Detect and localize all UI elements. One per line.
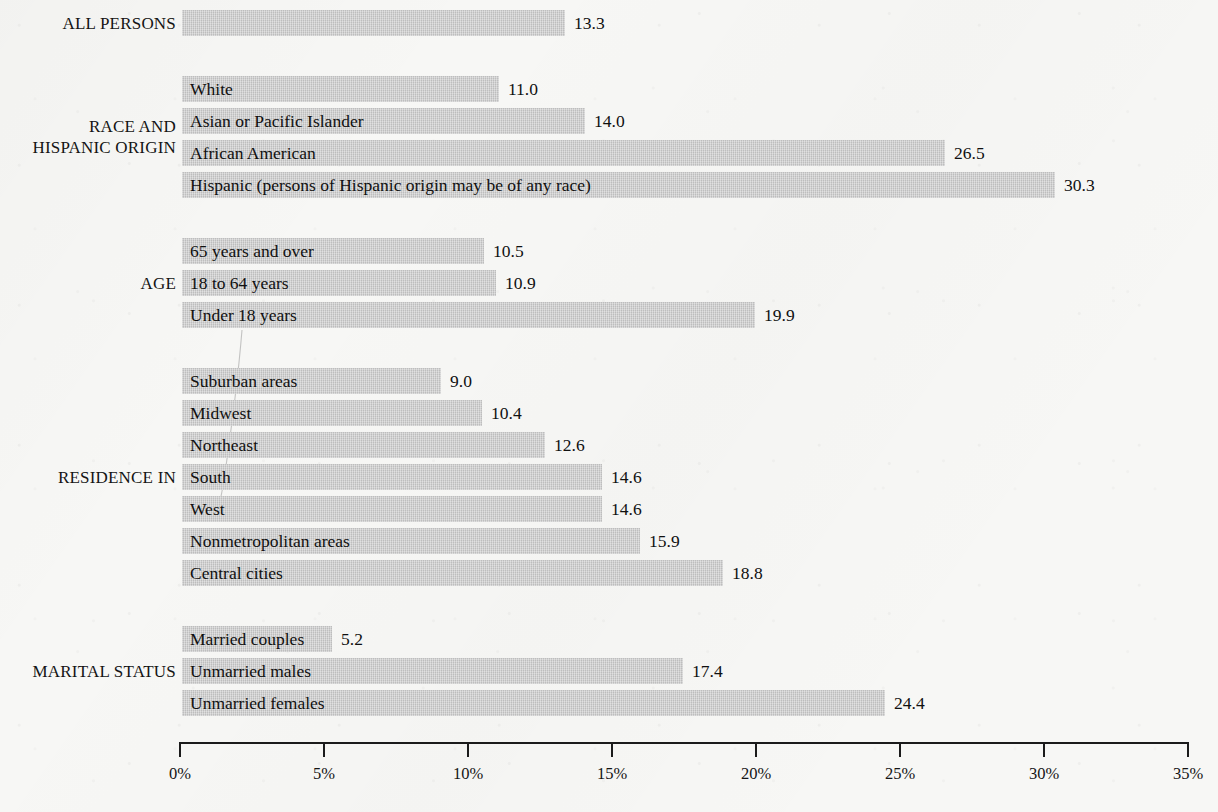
- bar-value-label: 10.5: [493, 238, 524, 264]
- group-label-race-and-hispanic-origin: RACE AND HISPANIC ORIGIN: [0, 116, 176, 158]
- bar-row: Northeast12.6: [0, 432, 1218, 458]
- bar-value-label: 17.4: [692, 658, 723, 684]
- bar-label: Married couples: [182, 626, 304, 652]
- bar-value-label: 26.5: [954, 140, 985, 166]
- bar-row: Unmarried males17.4: [0, 658, 1218, 684]
- bar-label: African American: [182, 140, 316, 166]
- bar-label: White: [182, 76, 233, 102]
- axis-tick-label: 35%: [1173, 764, 1203, 784]
- bar-value-label: 10.4: [491, 400, 522, 426]
- bar-label: Suburban areas: [182, 368, 297, 394]
- bar-label: Under 18 years: [182, 302, 297, 328]
- bar-row: 18 to 64 years10.9: [0, 270, 1218, 296]
- axis-tick: [899, 742, 901, 757]
- axis-tick-label: 15%: [597, 764, 627, 784]
- bar-row: Unmarried females24.4: [0, 690, 1218, 716]
- bar-label: Asian or Pacific Islander: [182, 108, 363, 134]
- bar-row: Under 18 years19.9: [0, 302, 1218, 328]
- bar-row: Midwest10.4: [0, 400, 1218, 426]
- bar-value-label: 5.2: [341, 626, 363, 652]
- bar-label: Unmarried males: [182, 658, 311, 684]
- bar-label: South: [182, 464, 231, 490]
- bar-label: Central cities: [182, 560, 283, 586]
- axis-tick: [1043, 742, 1045, 757]
- bar-value-label: 18.8: [732, 560, 763, 586]
- axis-tick: [611, 742, 613, 757]
- bar-label: West: [182, 496, 225, 522]
- group-label-marital-status: MARITAL STATUS: [0, 661, 176, 682]
- axis-tick-label: 0%: [169, 764, 191, 784]
- bar-value-label: 13.3: [574, 10, 605, 36]
- x-axis-line: [179, 742, 1187, 744]
- axis-tick: [1187, 742, 1189, 757]
- bar-row: Married couples5.2: [0, 626, 1218, 652]
- bar-value-label: 10.9: [505, 270, 536, 296]
- bar-row: Central cities18.8: [0, 560, 1218, 586]
- bar: [182, 10, 565, 36]
- group-label-all-persons: ALL PERSONS: [0, 13, 176, 34]
- axis-tick-label: 30%: [1029, 764, 1059, 784]
- group-label-age: AGE: [0, 273, 176, 294]
- bar-value-label: 12.6: [554, 432, 585, 458]
- bar-value-label: 14.0: [594, 108, 625, 134]
- axis-tick: [755, 742, 757, 757]
- axis-tick: [179, 742, 181, 757]
- bar-label: Northeast: [182, 432, 258, 458]
- bar-row: 65 years and over10.5: [0, 238, 1218, 264]
- axis-tick: [323, 742, 325, 757]
- bar-label: 18 to 64 years: [182, 270, 289, 296]
- bar-row: African American26.5: [0, 140, 1218, 166]
- bar-row: Nonmetropolitan areas15.9: [0, 528, 1218, 554]
- bar-value-label: 15.9: [649, 528, 680, 554]
- bar-row: Suburban areas9.0: [0, 368, 1218, 394]
- axis-tick-label: 25%: [885, 764, 915, 784]
- axis-tick-label: 10%: [453, 764, 483, 784]
- bar-row: Hispanic (persons of Hispanic origin may…: [0, 172, 1218, 198]
- chart-page: 13.3ALL PERSONSWhite11.0Asian or Pacific…: [0, 0, 1218, 812]
- bar-label: Unmarried females: [182, 690, 325, 716]
- bar-value-label: 19.9: [764, 302, 795, 328]
- bar-label: Hispanic (persons of Hispanic origin may…: [182, 172, 591, 198]
- bar-row: South14.6: [0, 464, 1218, 490]
- bar-row: Asian or Pacific Islander14.0: [0, 108, 1218, 134]
- bar: [182, 496, 602, 522]
- bar-row: West14.6: [0, 496, 1218, 522]
- bar: [182, 464, 602, 490]
- axis-tick-label: 5%: [313, 764, 335, 784]
- axis-tick-label: 20%: [741, 764, 771, 784]
- bar-row: White11.0: [0, 76, 1218, 102]
- bar-label: Nonmetropolitan areas: [182, 528, 350, 554]
- bar-label: 65 years and over: [182, 238, 314, 264]
- bar-value-label: 9.0: [450, 368, 472, 394]
- group-label-residence-in: RESIDENCE IN: [0, 467, 176, 488]
- bar-value-label: 14.6: [611, 496, 642, 522]
- bar-value-label: 14.6: [611, 464, 642, 490]
- bar-row: 13.3: [0, 10, 1218, 36]
- bar-label: Midwest: [182, 400, 251, 426]
- axis-tick: [467, 742, 469, 757]
- bar-value-label: 11.0: [508, 76, 538, 102]
- bar-value-label: 30.3: [1064, 172, 1095, 198]
- bar-value-label: 24.4: [894, 690, 925, 716]
